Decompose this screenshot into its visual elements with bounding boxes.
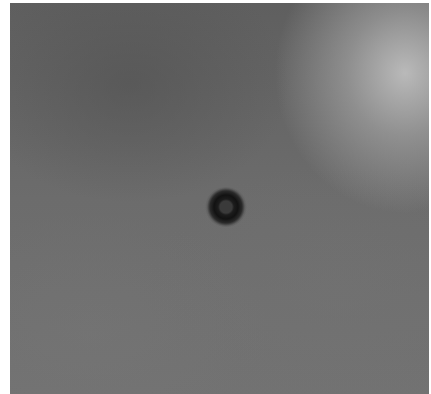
micrograph-image <box>10 3 429 394</box>
dark-ring-particle <box>205 187 247 227</box>
